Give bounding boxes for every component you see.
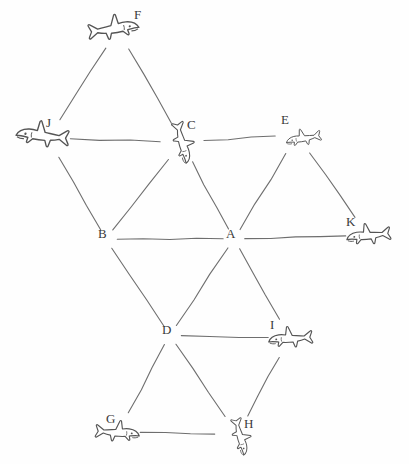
graph-edge-a-k [245,236,346,239]
graph-edge-e-a [240,154,286,230]
node-label-k: K [346,215,355,228]
node-label-h: H [244,417,253,430]
graph-edge-b-d [112,248,164,326]
graph-edge-j-c [70,139,160,142]
shark-node-g[interactable] [90,417,146,447]
shark-icon [89,415,147,449]
node-label-i: I [270,318,274,331]
graph-edge-d-i [181,336,268,338]
node-label-g: G [106,412,115,425]
node-label-c: C [187,118,196,131]
node-label-d: D [162,323,171,336]
graph-edge-j-b [59,157,101,229]
graph-edge-c-b [113,159,169,229]
graph-edge-a-b [117,238,223,239]
diagram-canvas: FJCEBAKDIGH [0,0,409,464]
node-label-e: E [281,113,289,126]
node-label-a: A [226,227,235,240]
graph-edge-d-g [128,345,164,413]
shark-icon [7,114,78,157]
graph-edge-f-j [60,48,106,120]
graph-edge-e-k [310,153,355,217]
graph-edge-c-a [193,162,229,229]
shark-node-c[interactable] [155,128,208,157]
graph-edge-g-h [140,432,214,434]
node-label-j: J [46,116,51,129]
graph-edge-d-h [176,344,225,416]
node-label-b: B [98,227,107,240]
graph-edge-i-h [248,358,279,416]
shark-node-h[interactable] [213,422,261,448]
graph-edge-f-c [129,49,172,123]
graph-edge-a-d [176,248,228,326]
graph-edge-c-e [204,136,275,141]
node-label-f: F [134,8,141,21]
graph-edge-a-i [240,249,280,319]
